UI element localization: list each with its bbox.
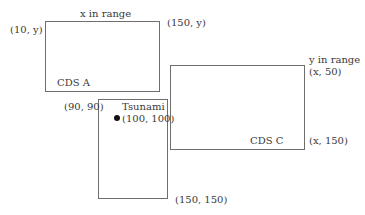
cds-c-box: [170, 65, 305, 150]
cds-a-top-label: x in range: [80, 8, 131, 20]
cds-a-top-left-coord: (10, y): [10, 24, 43, 36]
tsunami-point-coord: (100, 100): [122, 113, 174, 125]
tsunami-region-bottom-right-coord: (150, 150): [175, 194, 227, 206]
cds-a-name: CDS A: [57, 77, 90, 89]
tsunami-point-marker: [114, 115, 120, 121]
cds-c-top-label: y in range: [309, 54, 360, 66]
cds-a-top-right-coord: (150, y): [167, 17, 206, 29]
cds-c-bottom-right-coord: (x, 150): [309, 135, 348, 147]
tsunami-region-top-left-coord: (90, 90): [64, 101, 104, 113]
cds-c-top-right-coord: (x, 50): [309, 66, 342, 78]
tsunami-point-name: Tsunami: [122, 101, 165, 113]
cds-c-name: CDS C: [250, 135, 283, 147]
